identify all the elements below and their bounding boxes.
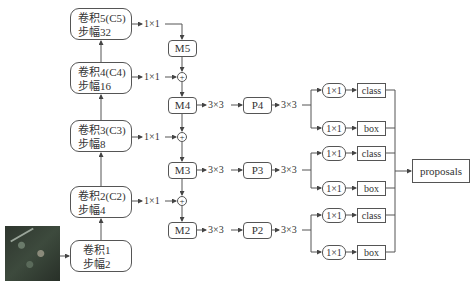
merge-m3-box: M3 <box>168 162 197 179</box>
pyramid-p2-box: P2 <box>243 222 272 239</box>
conv5-title: 卷积5(C5) <box>78 11 131 25</box>
lateral-1x1-c4: 1×1 <box>143 71 161 83</box>
conv4-stride: 步幅16 <box>78 79 131 93</box>
conv5-c5-box: 卷积5(C5) 步幅32 <box>70 8 132 40</box>
pyramid-p3-box: P3 <box>243 162 272 179</box>
lateral-1x1-c3: 1×1 <box>143 131 161 143</box>
merge-m4-box: M4 <box>168 97 197 114</box>
box-output-box: box <box>357 181 386 196</box>
head-conv1x1: 1×1 <box>322 146 346 161</box>
add-node-icon: + <box>177 72 187 82</box>
pyramid-p4-box: P4 <box>243 97 272 114</box>
lateral-1x1-c2: 1×1 <box>143 195 161 207</box>
lateral-1x1-c5: 1×1 <box>143 18 161 30</box>
box-output-box: box <box>357 245 386 260</box>
conv5-stride: 步幅32 <box>78 25 131 39</box>
proposals-box: proposals <box>412 159 470 183</box>
head-conv1x1: 1×1 <box>322 83 346 98</box>
conv2-c2-box: 卷积2(C2) 步幅4 <box>70 186 132 218</box>
merge-m5-box: M5 <box>168 40 197 57</box>
conv1-stride: 步幅2 <box>83 257 131 271</box>
conv3x3-p2: 3×3 <box>280 224 298 236</box>
head-conv1x1: 1×1 <box>322 208 346 223</box>
head-conv1x1: 1×1 <box>322 245 346 260</box>
conv3x3-p3: 3×3 <box>280 164 298 176</box>
conv3-title: 卷积3(C3) <box>78 123 131 137</box>
conv3x3-m4: 3×3 <box>207 99 225 111</box>
add-node-icon: + <box>177 132 187 142</box>
conv3x3-m2: 3×3 <box>207 224 225 236</box>
conv3-stride: 步幅8 <box>78 137 131 151</box>
class-output-box: class <box>357 146 386 161</box>
add-node-icon: + <box>177 196 187 206</box>
class-output-box: class <box>357 208 386 223</box>
conv3-c3-box: 卷积3(C3) 步幅8 <box>70 120 132 152</box>
conv3x3-p4: 3×3 <box>280 99 298 111</box>
conv1-title: 卷积1 <box>83 243 131 257</box>
box-output-box: box <box>357 121 386 136</box>
class-output-box: class <box>357 83 386 98</box>
conv4-title: 卷积4(C4) <box>78 65 131 79</box>
head-conv1x1: 1×1 <box>322 181 346 196</box>
input-aerial-image <box>5 226 60 281</box>
head-conv1x1: 1×1 <box>322 121 346 136</box>
conv3x3-m3: 3×3 <box>207 164 225 176</box>
conv2-stride: 步幅4 <box>78 203 131 217</box>
conv4-c4-box: 卷积4(C4) 步幅16 <box>70 62 132 94</box>
conv1-box: 卷积1 步幅2 <box>70 240 132 272</box>
conv2-title: 卷积2(C2) <box>78 189 131 203</box>
merge-m2-box: M2 <box>168 222 197 239</box>
